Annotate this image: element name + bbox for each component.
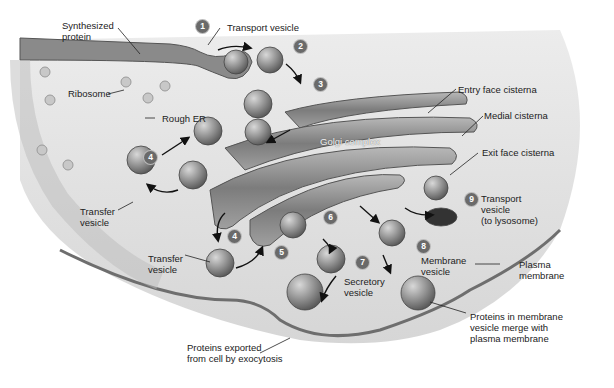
- label-secretory-vesicle: Secretory vesicle: [344, 276, 385, 298]
- label-transport-vesicle-lysosome: Transport vesicle (to lysosome): [481, 193, 538, 226]
- step-badge-2: 2: [294, 40, 307, 53]
- step-badge-1: 1: [196, 20, 209, 33]
- label-transport-vesicle: Transport vesicle: [227, 22, 299, 33]
- golgi-diagram: Synthesized protein Transport vesicle Ri…: [0, 0, 614, 388]
- step-badge-6: 6: [324, 211, 337, 224]
- label-membrane-vesicle: Membrane vesicle: [421, 255, 466, 277]
- label-transfer-vesicle-lower: Transfer vesicle: [148, 253, 183, 275]
- step-badge-9: 9: [465, 193, 478, 206]
- step-badge-3: 3: [314, 78, 327, 91]
- label-exit-face-cisterna: Exit face cisterna: [482, 147, 554, 158]
- step-badge-8: 8: [417, 240, 430, 253]
- label-medial-cisterna: Medial cisterna: [484, 110, 548, 121]
- label-ribosome: Ribosome: [68, 88, 111, 99]
- step-badge-5: 5: [275, 246, 288, 259]
- label-transfer-vesicle-upper: Transfer vesicle: [80, 206, 115, 228]
- label-merge-with-plasma-membrane: Proteins in membrane vesicle merge with …: [470, 311, 563, 344]
- step-badge-4-lower: 4: [228, 230, 241, 243]
- label-synthesized-protein: Synthesized protein: [62, 20, 114, 42]
- label-rough-er: Rough ER: [162, 113, 206, 124]
- label-golgi-complex: Golgi complex: [320, 136, 380, 147]
- label-exocytosis: Proteins exported from cell by exocytosi…: [187, 342, 283, 364]
- step-badge-7: 7: [356, 256, 369, 269]
- label-entry-face-cisterna: Entry face cisterna: [458, 84, 537, 95]
- step-badge-4-upper: 4: [144, 151, 157, 164]
- label-plasma-membrane: Plasma membrane: [519, 259, 564, 281]
